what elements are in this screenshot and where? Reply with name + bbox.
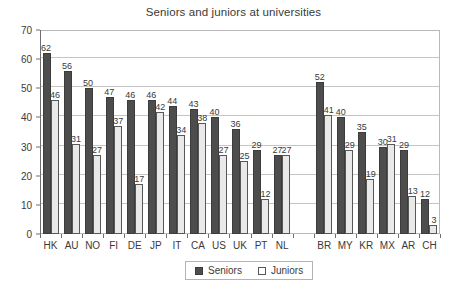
bar-value-label: 12 — [260, 190, 270, 199]
x-axis-tick-mark — [377, 234, 378, 238]
bar-value-label: 12 — [420, 190, 430, 199]
bar-value-label: 27 — [282, 146, 292, 155]
bar-value-label: 25 — [239, 152, 249, 161]
x-axis-tick-mark — [187, 234, 188, 238]
x-axis-tick-mark — [293, 234, 294, 238]
legend-item-seniors: Seniors — [195, 265, 242, 276]
bar-value-label: 56 — [62, 62, 72, 71]
bar-value-label: 31 — [387, 135, 397, 144]
bar-juniors: 27 — [93, 155, 101, 234]
x-axis-tick-mark — [419, 234, 420, 238]
bar-value-label: 29 — [399, 141, 409, 150]
x-axis-tick-mark — [61, 234, 62, 238]
bar-group — [293, 30, 314, 234]
bar-juniors: 31 — [72, 144, 80, 234]
bar-juniors: 41 — [324, 115, 332, 234]
bar-juniors: 17 — [135, 184, 143, 234]
bar-value-label: 19 — [366, 170, 376, 179]
x-axis-tick-mark — [208, 234, 209, 238]
x-axis-label-de: DE — [128, 240, 142, 251]
bar-juniors: 25 — [240, 161, 248, 234]
legend-label-seniors: Seniors — [208, 265, 242, 276]
bar-value-label: 50 — [83, 79, 93, 88]
bar-group: 3031 — [377, 30, 398, 234]
bar-juniors: 42 — [156, 112, 164, 234]
bar-value-label: 31 — [71, 135, 81, 144]
x-axis-tick-mark — [124, 234, 125, 238]
bar-group: 2727 — [272, 30, 293, 234]
bar-juniors: 19 — [366, 179, 374, 234]
x-axis-tick-mark — [440, 234, 441, 238]
bar-juniors: 37 — [114, 126, 122, 234]
bar-group: 4617 — [124, 30, 145, 234]
x-axis-label-my: MY — [338, 240, 353, 251]
y-axis-tick-label: 20 — [21, 170, 32, 181]
x-axis-label-fi: FI — [109, 240, 118, 251]
bar-value-label: 43 — [188, 100, 198, 109]
x-axis-tick-mark — [272, 234, 273, 238]
x-axis-label-no: NO — [85, 240, 100, 251]
x-axis-tick-mark — [251, 234, 252, 238]
bar-seniors: 36 — [232, 129, 240, 234]
bar-group: 2912 — [251, 30, 272, 234]
bar-group: 6246 — [40, 30, 61, 234]
bar-value-label: 29 — [345, 141, 355, 150]
legend-swatch-seniors-icon — [195, 267, 203, 275]
bar-value-label: 27 — [218, 146, 228, 155]
legend-label-juniors: Juniors — [271, 265, 303, 276]
bar-value-label: 42 — [155, 103, 165, 112]
x-axis-tick-mark — [103, 234, 104, 238]
x-axis-tick-mark — [229, 234, 230, 238]
bars-container: 6246563150274737461746424434433840273625… — [40, 30, 440, 234]
bar-group: 4338 — [187, 30, 208, 234]
x-axis-tick-mark — [335, 234, 336, 238]
bar-juniors: 46 — [51, 100, 59, 234]
x-axis-tick-mark — [356, 234, 357, 238]
bar-seniors: 12 — [421, 199, 429, 234]
x-axis-tick-mark — [398, 234, 399, 238]
bar-value-label: 17 — [134, 175, 144, 184]
y-axis-tick-label: 70 — [21, 25, 32, 36]
bar-seniors: 40 — [211, 117, 219, 234]
bar-juniors: 34 — [177, 135, 185, 234]
bar-seniors: 62 — [43, 53, 51, 234]
bar-group: 5631 — [61, 30, 82, 234]
bar-group: 4434 — [166, 30, 187, 234]
bar-juniors: 27 — [282, 155, 290, 234]
x-axis-label-uk: UK — [233, 240, 247, 251]
y-axis-tick-label: 60 — [21, 54, 32, 65]
y-axis-tick-label: 0 — [26, 229, 32, 240]
x-axis-tick-mark — [166, 234, 167, 238]
chart-legend: Seniors Juniors — [185, 261, 313, 280]
bar-value-label: 3 — [431, 216, 436, 225]
bar-seniors: 43 — [190, 109, 198, 234]
x-axis-label-ca: CA — [191, 240, 205, 251]
bar-value-label: 44 — [167, 97, 177, 106]
bar-juniors: 29 — [345, 150, 353, 235]
bar-group: 123 — [419, 30, 440, 234]
bar-value-label: 40 — [209, 108, 219, 117]
bar-group: 3519 — [356, 30, 377, 234]
bar-seniors: 27 — [274, 155, 282, 234]
y-axis: 010203040506070 — [0, 30, 40, 234]
bar-value-label: 52 — [315, 73, 325, 82]
y-axis-tick-label: 50 — [21, 83, 32, 94]
x-axis-label-hk: HK — [44, 240, 58, 251]
x-axis-label-it: IT — [172, 240, 181, 251]
x-axis-tick-mark — [82, 234, 83, 238]
bar-group: 2913 — [398, 30, 419, 234]
bar-value-label: 40 — [336, 108, 346, 117]
y-axis-tick-label: 10 — [21, 199, 32, 210]
bar-value-label: 38 — [197, 114, 207, 123]
bar-juniors: 13 — [408, 196, 416, 234]
bar-group: 4737 — [103, 30, 124, 234]
x-axis-label-ch: CH — [422, 240, 436, 251]
bar-juniors: 3 — [429, 225, 437, 234]
bar-seniors: 50 — [85, 88, 93, 234]
x-axis-tick-mark — [40, 234, 41, 238]
bar-value-label: 36 — [230, 120, 240, 129]
bar-value-label: 62 — [41, 44, 51, 53]
x-axis-label-nl: NL — [276, 240, 289, 251]
x-axis-label-jp: JP — [150, 240, 162, 251]
bar-juniors: 31 — [387, 144, 395, 234]
